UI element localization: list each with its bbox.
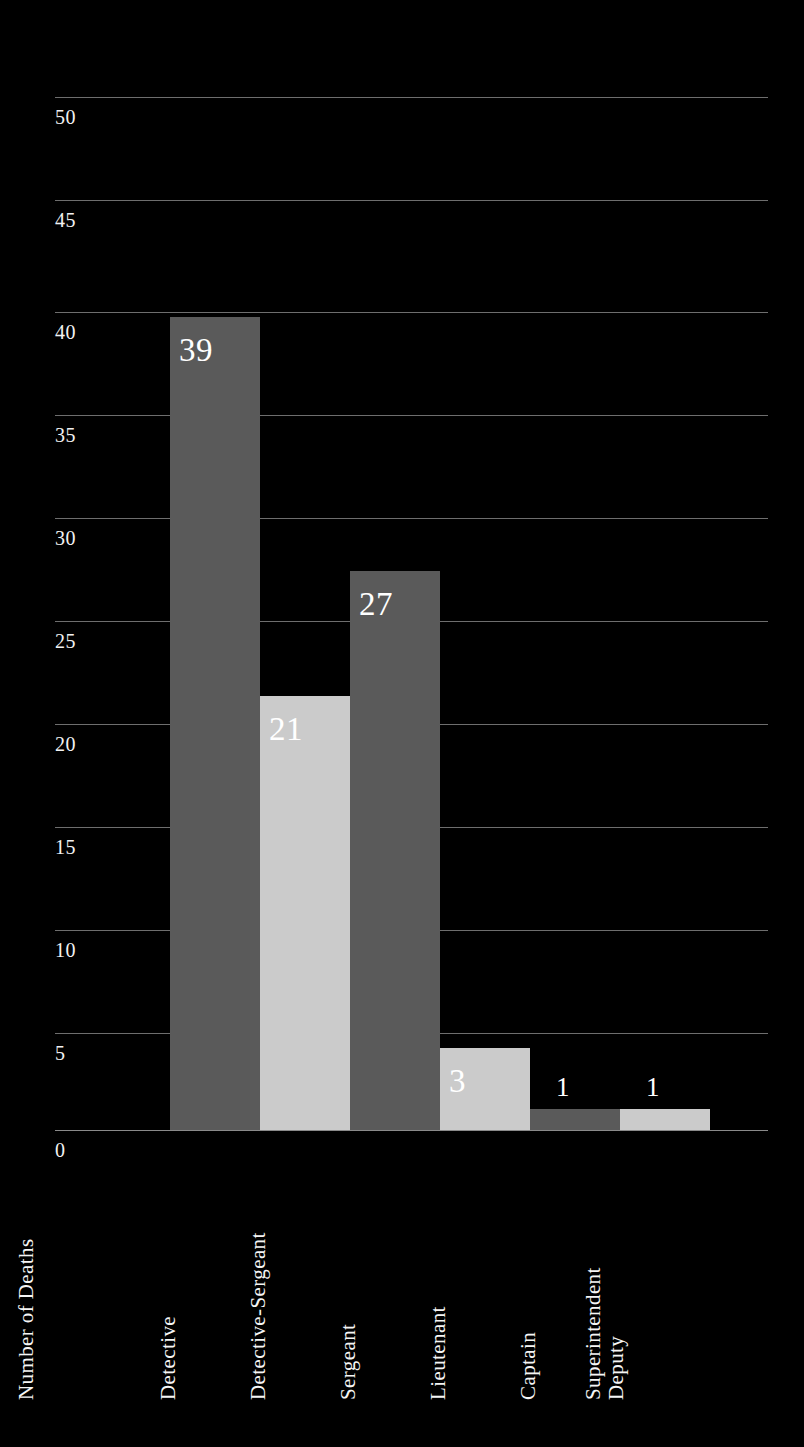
bar-slot-detective: 39 (170, 97, 260, 1130)
bar-value-detective-sergeant: 21 (269, 713, 303, 746)
axis-labels-layer: Number of Deaths Detective Detective-Ser… (0, 1160, 804, 1400)
x-axis-label-deputy-superintendent-line1: Deputy (605, 1267, 628, 1400)
bar-value-sergeant: 27 (359, 588, 393, 621)
bar-slot-sergeant: 27 (350, 97, 440, 1130)
bar-sergeant[interactable] (350, 571, 440, 1130)
bar-slot-deputy-superintendent: 1 (620, 97, 710, 1130)
bar-slot-lieutenant: 3 (440, 97, 530, 1130)
x-axis-label-deputy-superintendent-line2: Superintendent (582, 1267, 605, 1400)
ytick-label-30: 30 (55, 528, 76, 548)
bar-value-captain: 1 (556, 1071, 570, 1104)
gridline-0 (55, 1130, 768, 1131)
bar-detective-sergeant[interactable] (260, 696, 350, 1130)
bar-slot-detective-sergeant: 21 (260, 97, 350, 1130)
bar-captain[interactable] (530, 1109, 620, 1130)
bars-layer: 39 21 27 3 1 1 (170, 97, 710, 1130)
bar-slot-captain: 1 (530, 97, 620, 1130)
y-axis-label: Number of Deaths (15, 1238, 38, 1400)
bar-value-lieutenant: 3 (449, 1065, 466, 1098)
ytick-label-15: 15 (55, 837, 76, 857)
bar-value-detective: 39 (179, 334, 213, 367)
ytick-label-35: 35 (55, 425, 76, 445)
x-axis-label-lieutenant: Lieutenant (427, 1306, 450, 1400)
ytick-label-0: 0 (55, 1140, 66, 1160)
x-axis-label-detective-sergeant: Detective-Sergeant (247, 1232, 270, 1400)
ytick-label-40: 40 (55, 322, 76, 342)
x-axis-label-detective: Detective (157, 1316, 180, 1400)
bar-chart: 50 45 40 35 30 25 20 15 10 5 0 39 21 27 … (0, 0, 804, 1447)
bar-detective[interactable] (170, 317, 260, 1130)
ytick-label-5: 5 (55, 1043, 66, 1063)
x-axis-label-deputy-superintendent: Deputy Superintendent (582, 1267, 628, 1400)
x-axis-label-captain: Captain (517, 1332, 540, 1400)
bar-value-deputy-superintendent: 1 (646, 1071, 660, 1104)
x-axis-label-sergeant: Sergeant (337, 1324, 360, 1400)
ytick-label-25: 25 (55, 631, 76, 651)
bar-deputy-superintendent[interactable] (620, 1109, 710, 1130)
ytick-label-20: 20 (55, 734, 76, 754)
ytick-label-50: 50 (55, 107, 76, 127)
ytick-label-45: 45 (55, 210, 76, 230)
ytick-label-10: 10 (55, 940, 76, 960)
